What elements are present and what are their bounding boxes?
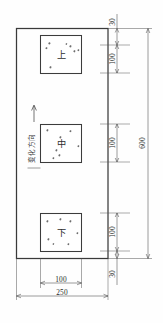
engineering-drawing: 上 中 下 变化方向 30 100 100 <box>0 0 163 323</box>
zone-label-middle: 中 <box>57 138 66 149</box>
dim-label-top-gap: 30 <box>108 18 117 26</box>
dim-label-zone-width: 100 <box>55 275 67 284</box>
drawing-canvas: 上 中 下 变化方向 30 100 100 <box>0 0 163 323</box>
zone-label-bottom: 下 <box>57 227 66 238</box>
zone-label-top: 上 <box>57 49 66 60</box>
dim-label-zone-middle: 100 <box>108 137 117 149</box>
dim-label-overall-width: 250 <box>56 288 68 297</box>
dim-label-zone-top: 100 <box>108 53 117 65</box>
dim-label-overall-height: 600 <box>138 137 147 149</box>
dim-label-zone-bottom: 100 <box>108 226 117 238</box>
flow-direction-label: 变化方向 <box>27 133 36 163</box>
dim-label-bottom-gap: 30 <box>108 270 117 278</box>
